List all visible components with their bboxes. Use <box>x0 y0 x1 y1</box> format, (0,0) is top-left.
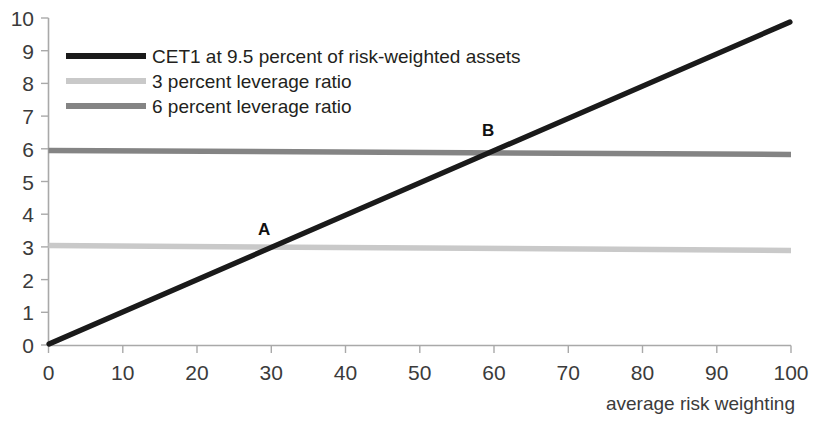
y-tick-label-3: 3 <box>22 236 34 259</box>
chart-container: A B 10 9 8 7 6 5 4 3 2 1 0 0 10 20 30 40… <box>0 0 814 425</box>
x-tick-label-10: 10 <box>111 361 134 384</box>
x-tick-label-100: 100 <box>773 361 808 384</box>
y-tick-label-7: 7 <box>22 105 34 128</box>
x-tick-label-50: 50 <box>408 361 431 384</box>
annotation-point-b: B <box>482 121 494 140</box>
x-tick-label-60: 60 <box>482 361 505 384</box>
x-tick-label-0: 0 <box>43 361 55 384</box>
x-tick-label-80: 80 <box>631 361 654 384</box>
x-tick-label-30: 30 <box>260 361 283 384</box>
y-tick-label-8: 8 <box>22 72 34 95</box>
legend-label-cet1: CET1 at 9.5 percent of risk-weighted ass… <box>152 46 521 67</box>
legend-label-leverage6: 6 percent leverage ratio <box>152 96 352 117</box>
annotation-point-a: A <box>258 220 270 239</box>
y-tick-label-2: 2 <box>22 269 34 292</box>
x-tick-label-40: 40 <box>334 361 357 384</box>
x-tick-label-90: 90 <box>705 361 728 384</box>
y-tick-label-4: 4 <box>22 203 34 226</box>
line-chart: A B 10 9 8 7 6 5 4 3 2 1 0 0 10 20 30 40… <box>0 0 814 425</box>
y-tick-label-0: 0 <box>22 334 34 357</box>
y-tick-label-9: 9 <box>22 40 34 63</box>
x-tick-label-70: 70 <box>557 361 580 384</box>
y-tick-label-10: 10 <box>11 7 34 30</box>
x-axis-title: average risk weighting <box>606 393 795 414</box>
y-tick-label-1: 1 <box>22 301 34 324</box>
legend-label-leverage3: 3 percent leverage ratio <box>152 71 352 92</box>
x-tick-label-20: 20 <box>185 361 208 384</box>
y-tick-label-5: 5 <box>22 171 34 194</box>
y-tick-label-6: 6 <box>22 138 34 161</box>
